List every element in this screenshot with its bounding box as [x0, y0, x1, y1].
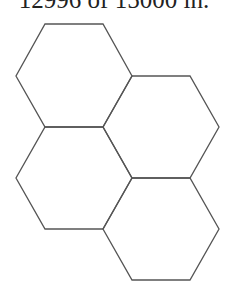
hexagon-middle-left: [16, 127, 132, 229]
hexagon-top-left: [16, 24, 132, 127]
diagram-canvas: 12996 of 15000 in.: [0, 0, 228, 284]
hexagon-diagram: [0, 0, 228, 284]
hexagon-bottom-right: [103, 178, 219, 280]
hexagon-middle-right: [103, 76, 219, 178]
